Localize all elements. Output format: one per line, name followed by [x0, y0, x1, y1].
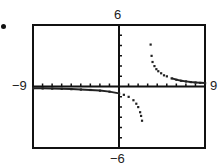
data-point — [139, 111, 141, 113]
data-point — [135, 103, 137, 105]
data-point — [150, 55, 152, 57]
data-point — [157, 70, 159, 72]
data-point — [132, 99, 134, 101]
data-point — [166, 75, 168, 77]
ymin-label: −6 — [110, 152, 125, 165]
data-point — [150, 43, 152, 45]
data-point — [151, 61, 153, 63]
data-point — [123, 94, 125, 96]
data-point — [140, 115, 142, 117]
data-point — [153, 65, 155, 67]
data-point — [141, 120, 143, 122]
data-point — [163, 74, 165, 76]
graph-window — [0, 0, 223, 168]
data-point — [128, 96, 130, 98]
data-point — [160, 72, 162, 74]
ymax-label: 6 — [114, 8, 121, 21]
xmax-label: 9 — [210, 79, 217, 92]
data-point — [155, 68, 157, 70]
xmin-label: −9 — [12, 79, 27, 92]
data-point — [137, 106, 139, 108]
